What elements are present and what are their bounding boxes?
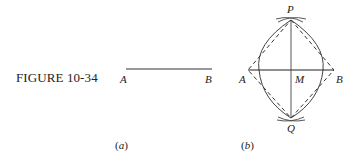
- label-a-left: A: [120, 73, 127, 85]
- label-q: Q: [287, 122, 295, 134]
- label-b-right: B: [336, 73, 343, 85]
- label-b-left: A: [239, 73, 246, 85]
- arc-left: [259, 20, 291, 118]
- panel-a-letter: a: [119, 139, 125, 151]
- panel-b-letter: b: [245, 139, 251, 151]
- panel-a-label: (a): [115, 139, 128, 151]
- label-a-right: B: [205, 73, 212, 85]
- label-p: P: [287, 3, 294, 15]
- arc-right: [291, 20, 323, 118]
- label-m: M: [295, 73, 304, 85]
- panel-b-label: (b): [241, 139, 254, 151]
